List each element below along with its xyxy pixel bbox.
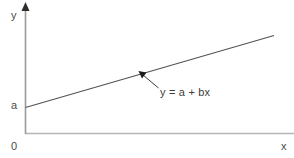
- y-axis-label: y: [11, 10, 17, 21]
- figure-canvas: [0, 0, 294, 158]
- annotation-leader-line: [143, 75, 159, 88]
- regression-line-figure: y a 0 x y = a + bx: [0, 0, 294, 158]
- x-axis-label: x: [281, 141, 287, 152]
- origin-label: 0: [11, 141, 17, 152]
- y-axis-arrow-icon: [22, 2, 30, 11]
- y-intercept-label: a: [11, 100, 17, 111]
- equation-annotation-label: y = a + bx: [160, 87, 210, 98]
- regression-line: [26, 36, 275, 108]
